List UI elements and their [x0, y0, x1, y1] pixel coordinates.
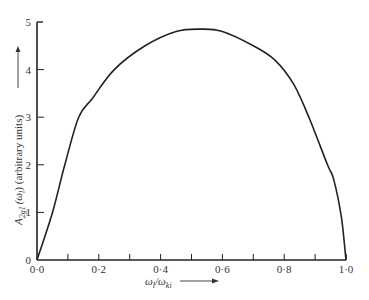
- chart-canvas: 0·00·20·40·60·81·0012345 A2g1(ωl) (arbit…: [0, 0, 369, 300]
- x-tick-label: 0·8: [277, 263, 292, 275]
- x-tick-label: 0·4: [153, 263, 168, 275]
- tick-labels: 0·00·20·40·60·81·0012345: [26, 16, 354, 275]
- x-tick-label: 0·2: [91, 263, 106, 275]
- data-curve: [37, 29, 346, 260]
- svg-text:ωl/ωki: ωl/ωki: [145, 275, 172, 290]
- chart: 0·00·20·40·60·81·0012345 A2g1(ωl) (arbit…: [0, 0, 369, 300]
- y-tick-label: 4: [26, 64, 32, 76]
- x-axis-arrow-icon: [212, 279, 219, 284]
- y-tick-label: 3: [26, 111, 32, 123]
- y-tick-label: 5: [26, 16, 32, 28]
- y-tick-label: 0: [26, 254, 32, 266]
- axes: [37, 22, 346, 260]
- y-axis-arrow-icon: [16, 46, 21, 52]
- y-tick-label: 2: [26, 159, 32, 171]
- tick-marks: [37, 70, 315, 260]
- x-tick-label: 0·0: [30, 263, 45, 275]
- x-tick-label: 1·0: [339, 263, 354, 275]
- x-tick-label: 0·6: [215, 263, 230, 275]
- x-axis-label: ωl/ωki: [145, 275, 219, 290]
